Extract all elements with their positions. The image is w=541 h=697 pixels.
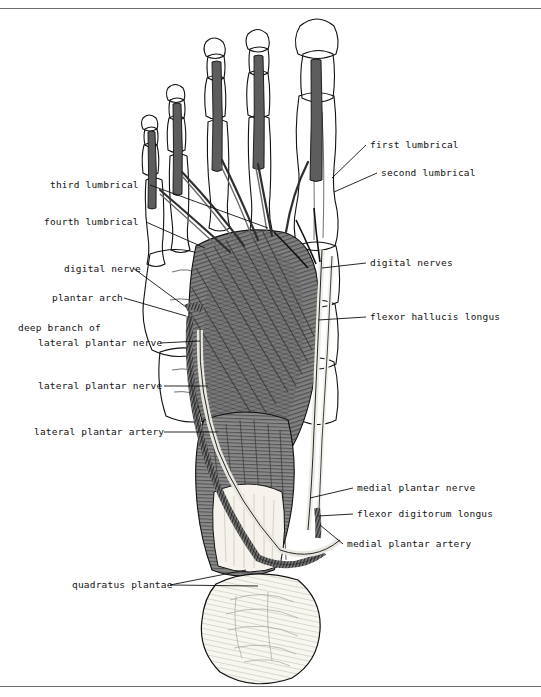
label-lateral-plantar-nerve: lateral plantar nerve [38, 380, 162, 392]
leader-fhl [318, 317, 366, 320]
label-digital-nerve: digital nerve [64, 263, 141, 275]
label-deep-branch-of: deep branch of [18, 322, 101, 334]
illustration-page: third lumbricalfourth lumbricaldigital n… [0, 0, 541, 697]
label-medial-plantar-nerve: medial plantar nerve [357, 482, 475, 494]
label-medial-plantar-artery: medial plantar artery [347, 538, 471, 550]
phalanges-group [142, 19, 339, 176]
label-lateral-plantar-nerve-deep: lateral plantar nerve [38, 337, 162, 349]
label-second-lumbrical: second lumbrical [381, 167, 476, 179]
leader-fdl [318, 514, 353, 516]
label-flexor-hallucis-longus: flexor hallucis longus [370, 311, 500, 323]
label-quadratus-plantae: quadratus plantae [72, 579, 173, 591]
flexor-hallucis-longus-tendon [310, 59, 322, 182]
label-fourth-lumbrical: fourth lumbrical [44, 216, 139, 228]
leader-first-lumbrical [332, 145, 366, 178]
calcaneus-bone [201, 574, 320, 684]
label-third-lumbrical: third lumbrical [50, 179, 139, 191]
leader-second-lumbrical [334, 173, 377, 192]
label-first-lumbrical: first lumbrical [370, 139, 459, 151]
leader-medial-artery [320, 525, 343, 544]
label-plantar-arch: plantar arch [52, 292, 123, 304]
plantar-arch-vessel [186, 306, 202, 310]
label-flexor-digitorum-longus: flexor digitorum longus [357, 508, 493, 520]
medial-plantar-artery-vessel [317, 508, 318, 538]
muscle-mass-group [189, 230, 320, 576]
calcaneus-group [201, 574, 320, 684]
leader-medial-nerve [310, 488, 353, 498]
label-digital-nerves: digital nerves [370, 257, 453, 269]
leader-digital-nerves [322, 263, 366, 268]
label-lateral-plantar-artery: lateral plantar artery [34, 426, 164, 438]
